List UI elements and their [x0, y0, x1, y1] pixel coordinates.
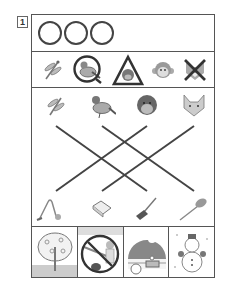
scene-spring-tree[interactable] [32, 227, 78, 277]
worksheet-frame [31, 14, 215, 227]
scene-summer-fishing-circled[interactable] [78, 227, 124, 277]
answer-row [32, 15, 214, 52]
dragonfly-icon [38, 55, 68, 85]
pigeon-circled-icon [72, 54, 104, 86]
scene-autumn-moon[interactable] [124, 227, 170, 277]
monkey-icon [148, 55, 178, 85]
answer-circle-2[interactable] [64, 21, 88, 45]
answer-circle-3[interactable] [90, 21, 114, 45]
answer-circle-1[interactable] [38, 21, 62, 45]
cloth-icon[interactable] [89, 198, 117, 224]
seasons-row [31, 227, 215, 278]
scene-winter-snowman[interactable] [169, 227, 214, 277]
matching-area [32, 88, 214, 227]
broom-icon[interactable] [132, 196, 160, 222]
gorilla-triangle-icon [112, 54, 144, 86]
fox-crossed-icon [180, 55, 210, 85]
vacuum-cleaner-icon[interactable] [36, 196, 68, 222]
feather-duster-icon[interactable] [178, 196, 206, 222]
question-number: 1 [17, 16, 28, 28]
symbol-key-row [32, 52, 214, 88]
